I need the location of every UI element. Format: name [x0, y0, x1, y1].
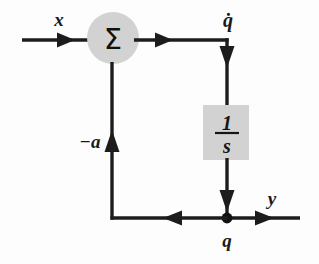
feedback-left-arrowhead-icon [163, 211, 182, 226]
integrator-numerator-label: 1 [222, 112, 232, 134]
q-signal-path [220, 158, 235, 219]
qdot-label: q̇ [223, 9, 233, 32]
qdot-signal-path [134, 33, 235, 107]
input-arrowhead-icon [57, 33, 75, 48]
output-arrowhead-icon [255, 211, 274, 226]
input-label-x: x [53, 9, 64, 30]
block-diagram-figure: Σ x q̇ −a 1 s q y [0, 0, 319, 264]
feedback-up-arrowhead-icon [105, 130, 120, 152]
output-signal-path [226, 211, 300, 226]
state-label-q: q [222, 230, 232, 251]
feedback-gain-label: −a [79, 131, 101, 152]
qdot-arrowhead-icon [155, 33, 173, 48]
diagram-canvas: Σ x q̇ −a 1 s q y [0, 0, 319, 264]
input-signal-path [22, 33, 92, 48]
qdot-down-arrowhead-icon [220, 46, 235, 68]
q-down-arrowhead-icon [220, 190, 235, 212]
integrator-denominator-label: s [222, 135, 231, 157]
sigma-symbol: Σ [104, 22, 122, 56]
output-label-y: y [266, 188, 277, 209]
